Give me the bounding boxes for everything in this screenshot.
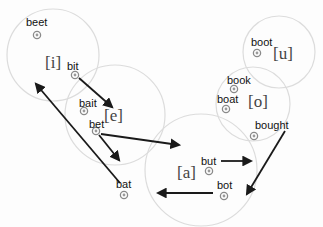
region-a-circle [145,114,257,226]
target-dot [95,130,98,133]
arrow-from-bat [36,84,120,183]
word-label-boat: boat [217,93,238,105]
phoneme-label: [a] [177,163,196,182]
word-marker-bot [220,192,227,199]
word-markers [33,31,260,199]
word-label-bot: bot [217,179,232,191]
word-label-bat: bat [116,178,131,190]
word-marker-boot [253,49,260,56]
word-label-beet: beet [26,16,47,28]
word-marker-bit [71,71,78,78]
target-dot [233,88,236,91]
word-marker-bat [120,191,127,198]
arrow-from-bet [101,134,179,145]
target-dot [253,135,256,138]
phoneme-label: [u] [273,44,293,63]
word-label-but: but [201,155,216,167]
word-label-bought: bought [255,119,289,131]
phoneme-label: [e] [104,106,123,125]
phoneme-label: [i] [45,53,61,72]
target-dot [36,34,39,37]
target-dot [223,195,226,198]
target-dot [83,110,86,113]
vowel-diagram: beetbitbaitbetbatbutbotbootbookboatbough… [0,0,323,227]
target-dot [225,108,228,111]
word-label-bit: bit [67,60,79,72]
word-marker-beet [33,31,40,38]
arrow-from-bet [99,135,119,160]
target-dot [208,170,211,173]
word-label-bet: bet [89,118,104,130]
phoneme-label: [o] [248,92,268,111]
word-label-boot: boot [251,36,272,48]
target-dot [74,74,77,77]
word-marker-bought [250,132,257,139]
word-marker-boat [222,105,229,112]
target-dot [123,194,126,197]
target-dot [256,52,259,55]
word-label-bait: bait [79,97,97,109]
diagram-svg: beetbitbaitbetbatbutbotbootbookboatbough… [0,0,323,227]
word-marker-book [230,85,237,92]
word-marker-but [205,167,212,174]
word-label-book: book [227,74,251,86]
